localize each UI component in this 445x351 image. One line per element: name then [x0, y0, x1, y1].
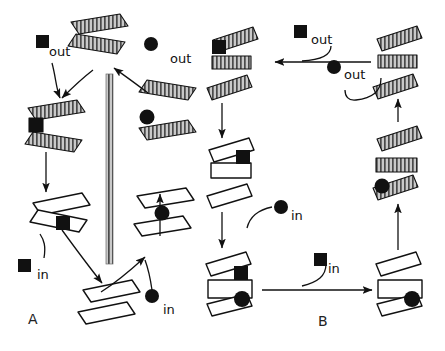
complex-b-bottomright-open-circle — [376, 252, 422, 316]
figure-canvas: out out in in out out in in A B — [0, 0, 445, 351]
ligand-square — [212, 40, 226, 54]
complex-b-topright-hatched-empty — [373, 26, 422, 99]
complex-a-top-hatched-open — [68, 14, 128, 54]
ligand-circle — [404, 291, 420, 307]
ligand-square — [234, 266, 248, 280]
out-label-circle-b: out — [344, 68, 365, 81]
in-label-square-b: in — [328, 262, 340, 275]
ligand-square-in-a — [18, 259, 31, 272]
ligand-square-out-a — [36, 35, 49, 48]
panel-label-a: A — [28, 312, 38, 326]
arrow-b-square-out-bind — [302, 46, 331, 61]
arrow-b-square-in-release — [302, 264, 326, 286]
panel-label-b: B — [318, 314, 328, 328]
in-label-square-left: in — [37, 268, 49, 281]
complex-b-midleft-open-square — [207, 138, 254, 208]
complex-a-left-open-square — [30, 193, 90, 232]
ligand-square — [29, 118, 43, 132]
arrow-a-left-to-bottom — [62, 230, 102, 283]
ligand-circle-out-b — [327, 60, 341, 74]
out-label-circle-right: out — [170, 52, 191, 65]
ligand-circle — [155, 206, 170, 221]
ligand-circle — [375, 179, 390, 194]
arrow-a-square-out-bind — [52, 63, 60, 98]
complex-b-midright-hatched-circle — [373, 126, 422, 200]
complex-a-right-open-circle — [134, 188, 194, 236]
arrow-b-circle-in-bind — [247, 207, 272, 228]
ligand-circle — [234, 291, 250, 307]
ligand-square — [56, 216, 70, 230]
arrow-a-circle-in-bind — [145, 260, 152, 290]
membrane-bar — [106, 74, 113, 264]
complex-b-topleft-hatched-square — [207, 27, 258, 100]
out-label-square-left: out — [49, 45, 70, 58]
complex-a-right-hatched-circle — [139, 80, 196, 140]
ligand-square — [236, 150, 250, 164]
ligand-circle-out-a — [144, 37, 158, 51]
arrow-a-right-to-top — [114, 68, 148, 93]
out-label-square-b: out — [311, 33, 332, 46]
arrow-group-a — [40, 63, 160, 292]
in-label-circle-b: in — [291, 209, 303, 222]
ligand-square-out-b — [294, 25, 307, 38]
ligand-circle-in-b — [274, 200, 288, 214]
complex-b-bottomleft-open-both — [206, 252, 252, 316]
arrow-a-square-in-release — [40, 234, 45, 258]
complex-a-left-hatched-square — [25, 100, 85, 152]
arrow-a-top-to-left — [62, 70, 93, 98]
ligand-circle — [140, 110, 155, 125]
ligand-square-in-b — [314, 253, 327, 266]
in-label-circle-right: in — [163, 303, 175, 316]
ligand-circle-in-a — [145, 289, 159, 303]
